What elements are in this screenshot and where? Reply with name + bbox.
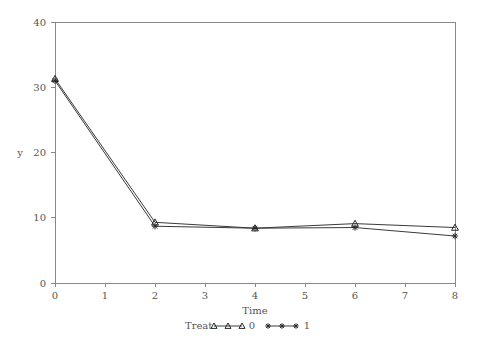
x-tick-label-3: 3: [202, 290, 208, 301]
legend-marker-series-0[interactable]: [211, 323, 245, 328]
data-point-1-x4: [252, 225, 258, 231]
y-tick-label-0: 0: [40, 278, 46, 289]
legend-marker-sample-1: [279, 323, 285, 329]
x-axis-tick-labels: 0 1 2 3 4 5 6 7 8: [52, 290, 458, 301]
legend-marker-sample-0: [265, 323, 271, 329]
legend-marker-series-1[interactable]: [265, 323, 299, 329]
marker-star-strokes: [52, 78, 58, 84]
line-chart: 0 10 20 30 40 y 0 1 2 3 4 5 6: [0, 0, 478, 343]
y-tick-label-30: 30: [33, 82, 46, 93]
marker-star-strokes: [352, 224, 358, 230]
chart-container: 0 10 20 30 40 y 0 1 2 3 4 5 6: [0, 0, 478, 343]
y-axis-tick-labels: 0 10 20 30 40: [33, 17, 46, 289]
legend-label-series-1: 1: [304, 320, 310, 331]
y-axis-title: y: [16, 147, 23, 158]
series-0: [52, 75, 459, 231]
axis-frame: [55, 22, 455, 283]
marker-star-strokes: [265, 323, 271, 329]
x-tick-label-1: 1: [102, 290, 108, 301]
series-layer: [52, 75, 459, 239]
marker-star-strokes: [279, 323, 285, 329]
x-tick-label-4: 4: [252, 290, 258, 301]
series-line-0: [55, 79, 455, 228]
data-point-1-x8: [452, 233, 458, 239]
x-tick-label-7: 7: [402, 290, 408, 301]
y-tick-label-40: 40: [33, 17, 46, 28]
plot-border: [55, 22, 455, 283]
x-tick-label-6: 6: [352, 290, 358, 301]
y-axis-ticks: [51, 22, 55, 283]
data-point-1-x0: [52, 78, 58, 84]
chart-legend: Treat 0 1: [185, 320, 310, 331]
x-tick-label-0: 0: [52, 290, 58, 301]
data-point-1-x2: [152, 223, 158, 229]
x-tick-label-8: 8: [452, 290, 458, 301]
legend-title: Treat: [185, 320, 212, 331]
legend-marker-sample-2: [293, 323, 299, 329]
marker-star-strokes: [252, 225, 258, 231]
marker-star-strokes: [452, 233, 458, 239]
y-tick-label-20: 20: [33, 147, 46, 158]
marker-star-strokes: [152, 223, 158, 229]
x-axis-title: Time: [242, 305, 267, 316]
x-tick-label-5: 5: [302, 290, 308, 301]
y-tick-label-10: 10: [33, 212, 46, 223]
marker-star-strokes: [293, 323, 299, 329]
series-1: [52, 78, 458, 240]
legend-label-series-0: 0: [249, 320, 255, 331]
x-tick-label-2: 2: [152, 290, 158, 301]
series-line-1: [55, 81, 455, 236]
x-axis-ticks: [55, 283, 455, 287]
data-point-1-x6: [352, 224, 358, 230]
